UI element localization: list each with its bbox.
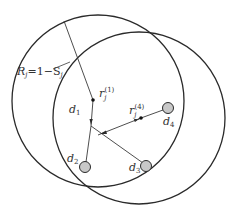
label-r4: rj(4) bbox=[129, 103, 145, 119]
arrow-icon bbox=[90, 119, 93, 125]
circle-1 bbox=[12, 15, 184, 187]
label-d1: d1 bbox=[69, 103, 81, 117]
path-d4-r4 bbox=[141, 110, 163, 118]
point-r4 bbox=[139, 116, 143, 120]
label-d2: d2 bbox=[67, 152, 79, 166]
point-r1 bbox=[91, 98, 95, 102]
label-radius: Rj=1−Sj bbox=[16, 65, 63, 79]
arrow-icon bbox=[100, 131, 107, 135]
path-junction-d3 bbox=[91, 126, 143, 163]
circle-2 bbox=[53, 32, 225, 204]
label-d4: d4 bbox=[163, 115, 175, 129]
diagram-canvas: Rj=1−Sj rj(1) rj(4) d1 d2 d3 d4 bbox=[0, 0, 232, 217]
label-r1: rj(1) bbox=[99, 86, 115, 102]
path-junction-d2 bbox=[86, 126, 91, 162]
node-d4 bbox=[163, 103, 174, 114]
diagram-svg: Rj=1−Sj rj(1) rj(4) d1 d2 d3 d4 bbox=[0, 0, 232, 217]
node-d2 bbox=[80, 162, 91, 173]
radius-line bbox=[64, 21, 93, 100]
label-d3: d3 bbox=[129, 161, 141, 175]
node-d3 bbox=[141, 161, 152, 172]
